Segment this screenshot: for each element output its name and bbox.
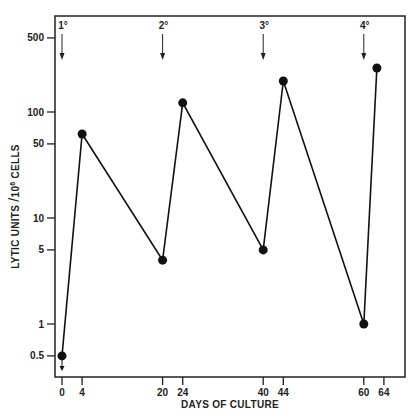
y-tick-label: 50 — [33, 138, 45, 149]
data-point — [178, 98, 187, 107]
stimulation-label: 3° — [259, 20, 269, 31]
data-point — [259, 245, 268, 254]
data-point — [78, 130, 87, 139]
y-tick-label: 1 — [38, 319, 44, 330]
x-tick-label: 0 — [59, 387, 65, 398]
stimulation-label: 1° — [58, 20, 68, 31]
line-chart: 0.5151050100500 04202440446064 1°2°3°4° … — [0, 0, 416, 419]
y-tick-label: 100 — [27, 107, 44, 118]
arrowhead-icon — [261, 53, 266, 60]
data-point — [279, 77, 288, 86]
x-axis-title: DAYS OF CULTURE — [181, 399, 279, 410]
x-tick-label: 20 — [157, 387, 169, 398]
data-point — [158, 256, 167, 265]
data-points — [58, 64, 382, 361]
data-point — [372, 64, 381, 73]
data-point — [58, 351, 67, 360]
stimulation-arrows: 1°2°3°4° — [58, 20, 369, 60]
y-tick-label: 10 — [33, 213, 45, 224]
arrowhead-icon — [160, 53, 165, 60]
x-tick-label: 64 — [378, 387, 390, 398]
arrowhead-icon — [60, 53, 65, 60]
x-axis: 04202440446064 — [59, 377, 390, 398]
stimulation-label: 4° — [360, 20, 370, 31]
below-detection-arrow-icon — [60, 360, 65, 371]
y-axis-title: LYTIC UNITS /106 CELLS — [6, 144, 22, 269]
x-tick-label: 44 — [278, 387, 290, 398]
plot-frame — [55, 16, 405, 377]
y-tick-label: 500 — [27, 32, 44, 43]
y-tick-label: 0.5 — [30, 350, 44, 361]
x-tick-label: 24 — [177, 387, 189, 398]
arrowhead-icon — [361, 53, 366, 60]
x-tick-label: 4 — [79, 387, 85, 398]
data-point — [359, 320, 368, 329]
y-tick-label: 5 — [38, 244, 44, 255]
x-tick-label: 40 — [258, 387, 270, 398]
stimulation-label: 2° — [159, 20, 169, 31]
y-axis: 0.5151050100500 — [27, 32, 55, 361]
x-tick-label: 60 — [358, 387, 370, 398]
data-line — [62, 68, 377, 356]
